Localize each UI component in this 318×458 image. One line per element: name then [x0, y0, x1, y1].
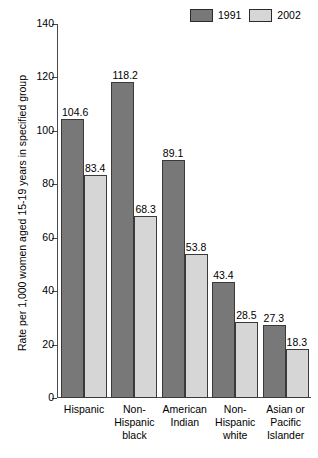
legend-swatch-1991	[190, 9, 213, 22]
bar: 27.3	[263, 325, 286, 398]
y-tick-label: 100	[36, 124, 54, 137]
legend-swatch-2002	[249, 9, 272, 22]
bar-group: 89.153.8	[162, 24, 208, 398]
bar: 18.3	[286, 349, 309, 398]
bar-group: 43.428.5	[212, 24, 258, 398]
bar-chart: 1991 2002 Rate per 1,000 women aged 15-1…	[0, 0, 318, 458]
y-tick-label: 120	[36, 70, 54, 83]
category-label-line: Asian or	[251, 403, 318, 416]
legend-entry-2002: 2002	[249, 9, 300, 22]
bar-group: 27.318.3	[263, 24, 309, 398]
bar-value-label: 43.4	[213, 269, 233, 281]
plot-area: 020406080100120140 104.683.4118.268.389.…	[57, 24, 311, 398]
legend-label-1991: 1991	[218, 10, 241, 21]
y-axis-title: Rate per 1,000 women aged 15-19 years in…	[16, 41, 28, 386]
bar-value-label: 53.8	[186, 241, 206, 253]
bar: 68.3	[134, 216, 157, 398]
y-tick-label: 20	[42, 338, 54, 351]
bar-value-label: 28.5	[236, 309, 256, 321]
y-tick-label: 80	[42, 177, 54, 190]
y-tick-label: 140	[36, 17, 54, 30]
category-label: Asian orPacificIslander	[251, 403, 318, 442]
bar-value-label: 89.1	[163, 147, 183, 159]
bar: 89.1	[162, 160, 185, 398]
bar: 104.6	[61, 119, 84, 398]
bar: 118.2	[111, 82, 134, 398]
category-label-line: black	[99, 429, 169, 442]
category-label-line: Islander	[251, 429, 318, 442]
bar-group: 104.683.4	[61, 24, 107, 398]
legend-entry-1991: 1991	[190, 9, 241, 22]
bar: 43.4	[212, 282, 235, 398]
bar: 28.5	[235, 322, 258, 398]
y-axis-line	[57, 24, 58, 398]
bar: 83.4	[84, 175, 107, 398]
bar: 53.8	[185, 254, 208, 398]
bar-group: 118.268.3	[111, 24, 157, 398]
y-tick-label: 60	[42, 231, 54, 244]
y-tick-label: 40	[42, 284, 54, 297]
category-label-line: Pacific	[251, 416, 318, 429]
bar-value-label: 27.3	[264, 312, 284, 324]
chart-legend: 1991 2002	[190, 7, 301, 23]
bar-value-label: 104.6	[62, 106, 88, 118]
bar-value-label: 18.3	[287, 336, 307, 348]
bar-value-label: 83.4	[85, 162, 105, 174]
legend-label-2002: 2002	[277, 10, 300, 21]
bar-value-label: 68.3	[135, 203, 155, 215]
bar-value-label: 118.2	[112, 69, 138, 81]
